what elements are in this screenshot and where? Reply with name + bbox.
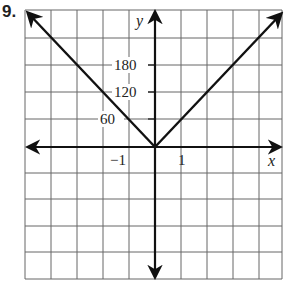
y-tick-60: 60 xyxy=(100,111,115,127)
y-axis-label: y xyxy=(134,12,144,30)
curve-left-branch xyxy=(28,13,155,147)
y-tick-120: 120 xyxy=(114,84,137,100)
x-tick-1: 1 xyxy=(178,152,186,168)
x-axis-label: x xyxy=(267,152,275,169)
graph: y x 180 120 60 −1 1 xyxy=(0,0,285,295)
y-tick-180: 180 xyxy=(114,57,137,73)
curve-right-branch xyxy=(155,14,281,147)
x-tick-neg1: −1 xyxy=(110,152,126,168)
